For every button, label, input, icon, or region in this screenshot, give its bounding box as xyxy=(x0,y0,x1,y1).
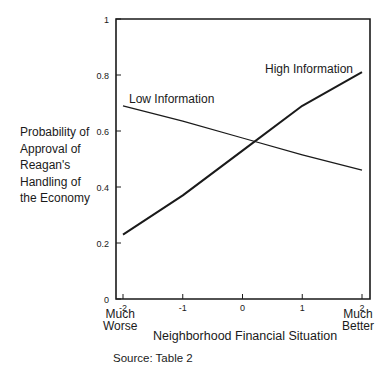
y-tick-label: 1 xyxy=(104,15,109,25)
x-tick-label: 1 xyxy=(300,303,305,313)
series-label-low-information: Low Information xyxy=(129,92,214,106)
y-tick-label: 0 xyxy=(104,295,109,305)
y-axis-title: Probability of Approval of Reagan's Hand… xyxy=(20,124,90,207)
x-tick-label: -1 xyxy=(179,303,187,313)
y-tick-label: 0.2 xyxy=(96,239,109,249)
series-line-low-information xyxy=(123,106,362,170)
source-note: Source: Table 2 xyxy=(113,352,193,364)
x-tick-label: 0 xyxy=(240,303,245,313)
y-tick-label: 0.6 xyxy=(96,127,109,137)
y-tick-label: 0.8 xyxy=(96,71,109,81)
x-axis-title: Neighborhood Financial Situation xyxy=(153,329,337,343)
series-label-high-information: High Information xyxy=(265,62,353,76)
x-end-label-right: Much Better xyxy=(342,308,374,332)
plot-frame xyxy=(116,19,370,299)
y-tick-label: 0.4 xyxy=(96,183,109,193)
x-end-label-left: Much Worse xyxy=(103,308,137,332)
